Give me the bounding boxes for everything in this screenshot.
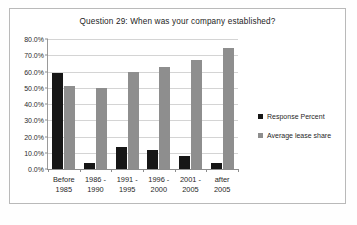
bar-group: 2001 -2005: [175, 39, 207, 169]
figure-caption: [60, 208, 305, 220]
figure-page: Question 29: When was your company estab…: [0, 0, 357, 225]
x-label-line-2: 1985: [48, 185, 80, 195]
x-tick-mark: [48, 169, 49, 172]
x-category-label: Before1985: [48, 175, 80, 194]
legend-swatch-icon: [258, 133, 263, 138]
chart-title: Question 29: When was your company estab…: [10, 17, 345, 26]
x-label-line-1: 2001 -: [175, 175, 207, 185]
y-tick-label: 50.0%: [24, 84, 44, 91]
x-category-label: 1986 -1990: [80, 175, 112, 194]
bar-average-lease-share: [159, 67, 170, 169]
bar-average-lease-share: [191, 60, 202, 169]
bar-response-percent: [84, 163, 95, 170]
x-tick-mark: [206, 169, 207, 172]
x-label-line-1: after: [206, 175, 238, 185]
y-tick-label: 10.0%: [24, 149, 44, 156]
bar-response-percent: [116, 147, 127, 169]
legend-label: Average lease share: [267, 132, 331, 139]
y-tick-label: 20.0%: [24, 133, 44, 140]
chart-legend: Response Percent Average lease share: [258, 113, 342, 151]
x-label-line-1: 1991 -: [111, 175, 143, 185]
x-category-label: after2005: [206, 175, 238, 194]
bar-average-lease-share: [96, 88, 107, 169]
bar-average-lease-share: [223, 48, 234, 169]
y-tick-label: 60.0%: [24, 68, 44, 75]
x-label-line-1: 1996 -: [143, 175, 175, 185]
y-tick-label: 80.0%: [24, 36, 44, 43]
bar-response-percent: [211, 163, 222, 170]
x-label-line-1: 1986 -: [80, 175, 112, 185]
bar-response-percent: [147, 150, 158, 169]
legend-item-response-percent: Response Percent: [258, 113, 342, 120]
bar-average-lease-share: [64, 86, 75, 169]
x-label-line-2: 1990: [80, 185, 112, 195]
y-tick-label: 0.0%: [28, 166, 44, 173]
x-category-label: 1991 -1995: [111, 175, 143, 194]
legend-swatch-icon: [258, 114, 263, 119]
bar-average-lease-share: [128, 72, 139, 170]
x-tick-mark: [175, 169, 176, 172]
x-tick-mark: [80, 169, 81, 172]
bar-group: 1991 -1995: [111, 39, 143, 169]
bar-group: after2005: [206, 39, 238, 169]
chart-frame: Question 29: When was your company estab…: [9, 8, 346, 204]
x-label-line-2: 2005: [206, 185, 238, 195]
y-tick-label: 40.0%: [24, 101, 44, 108]
y-tick-label: 30.0%: [24, 117, 44, 124]
legend-label: Response Percent: [267, 113, 325, 120]
y-tick-label: 70.0%: [24, 52, 44, 59]
plot-area: 0.0%10.0%20.0%30.0%40.0%50.0%60.0%70.0%8…: [48, 39, 238, 169]
bar-group: Before1985: [48, 39, 80, 169]
x-label-line-1: Before: [48, 175, 80, 185]
x-category-label: 2001 -2005: [175, 175, 207, 194]
bar-group: 1986 -1990: [80, 39, 112, 169]
x-tick-mark: [143, 169, 144, 172]
x-tick-mark: [238, 169, 239, 172]
x-label-line-2: 1995: [111, 185, 143, 195]
bar-group: 1996 -2000: [143, 39, 175, 169]
x-category-label: 1996 -2000: [143, 175, 175, 194]
bar-response-percent: [179, 156, 190, 169]
x-label-line-2: 2005: [175, 185, 207, 195]
x-label-line-2: 2000: [143, 185, 175, 195]
x-tick-mark: [111, 169, 112, 172]
legend-item-average-lease-share: Average lease share: [258, 132, 342, 139]
bar-response-percent: [52, 73, 63, 169]
